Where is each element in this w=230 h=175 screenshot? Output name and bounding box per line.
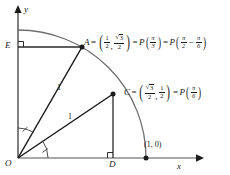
paren-open-A: ( [99,37,103,48]
P-function-1: P [139,38,145,47]
paren-close-C-p: ) [198,88,201,97]
paren-open-C: ( [139,87,143,98]
fraction-C-y: 1 2 [158,85,165,100]
equals-sign-2: = [131,38,139,47]
paren-close-A-p1: ) [157,38,160,47]
point-D-label: D [109,160,116,169]
point-C-dot [111,92,116,97]
paren-close-A-p2: ) [203,38,206,47]
paren-close-A: ) [126,37,130,48]
fraction-A-angle2a: π 2 [180,35,187,50]
radius-OC [18,94,113,158]
fraction-A-y: √3 2 [114,34,125,50]
segment-OA-length-label: 1 [57,84,61,92]
radicand-A-y: 3 [119,34,123,42]
y-axis-label: y [24,5,28,14]
origin-label: O [5,159,12,168]
fraction-A-angle1: π 3 [150,35,157,50]
unit-point-label: (1, 0) [144,141,161,149]
point-E-label: E [5,41,11,50]
equals-sign-C1: = [130,88,138,97]
point-A-equation: A = ( 1 2 , √3 2 ) = P ( π 3 ) [84,33,207,50]
unit-circle-figure: y x O E D (1, 0) 1 1 A = ( 1 2 , √3 2 ) … [0,0,230,175]
equals-sign-C2: = [171,88,179,97]
paren-open-A-p1: ( [145,38,148,47]
angle-arc-AOy [18,127,33,132]
radius-OA [18,47,82,158]
fraction-A-angle2b: π 6 [195,35,202,50]
coord-comma-C: , [155,92,158,101]
angle-arc-COx [43,141,49,158]
fraction-C-angle: π 6 [190,85,197,100]
equals-sign-3: = [162,38,170,47]
right-angle-mark-D [108,153,114,159]
paren-close-C: ) [167,87,171,98]
equals-sign-1: = [90,38,98,47]
paren-open-C-p: ( [186,88,189,97]
fraction-A-x: 1 2 [104,35,111,50]
y-axis [14,5,21,158]
right-angle-mark-E [18,42,24,48]
P-function-C: P [180,88,186,97]
x-axis-label: x [177,162,181,171]
x-axis-arrowhead [196,154,204,162]
radicand-C-x: 3 [149,84,153,92]
P-function-2: P [170,38,176,47]
paren-open-A-p2: ( [176,38,179,47]
y-axis-arrowhead [14,5,21,13]
coord-comma-A: , [111,42,114,51]
minus-sign-A: − [187,38,195,47]
point-unit-dot [144,156,149,161]
point-C-equation: C = ( √3 2 , 1 2 ) = P ( π 6 ) [124,83,202,100]
fraction-C-x: √3 2 [144,84,155,100]
segment-OC-length-label: 1 [68,113,72,121]
